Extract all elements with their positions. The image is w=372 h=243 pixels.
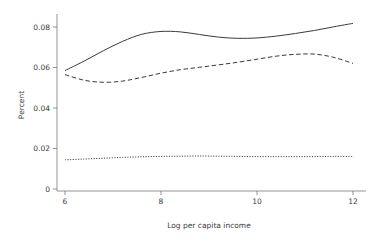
y-tick-group: 00.020.040.060.08	[33, 23, 57, 194]
y-axis-title: Percent	[17, 91, 26, 119]
series-line-dotted-curve	[65, 156, 353, 160]
series-group	[65, 23, 353, 159]
series-line-dashed-curve	[65, 54, 353, 82]
y-tick-label: 0.02	[33, 144, 50, 153]
y-axis: 00.020.040.060.08	[33, 14, 57, 194]
series-line-solid-curve	[65, 23, 353, 70]
x-tick-label: 10	[252, 197, 262, 206]
x-axis: 681012	[57, 191, 366, 206]
x-tick-group: 681012	[63, 191, 358, 206]
y-tick-label: 0.04	[33, 104, 50, 113]
x-axis-title: Log per capita income	[167, 221, 251, 230]
x-tick-label: 12	[348, 197, 358, 206]
y-tick-label: 0.06	[33, 63, 50, 72]
y-tick-label: 0	[45, 185, 50, 194]
x-tick-label: 8	[159, 197, 164, 206]
y-tick-label: 0.08	[33, 23, 50, 32]
x-tick-label: 6	[63, 197, 68, 206]
line-chart: 00.020.040.060.08 681012 Percent Log per…	[0, 0, 372, 243]
chart-container: 00.020.040.060.08 681012 Percent Log per…	[0, 0, 372, 243]
